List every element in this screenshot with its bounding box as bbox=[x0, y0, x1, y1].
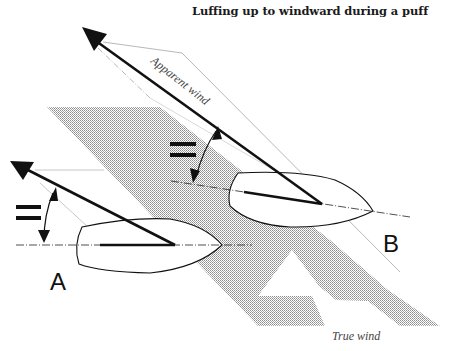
equal-sign-a-bottom bbox=[16, 216, 41, 220]
boat-a-letter: A bbox=[50, 268, 66, 295]
angle-arrow-down-icon bbox=[38, 230, 50, 243]
apparent-wind-label: Apparent wind bbox=[147, 53, 213, 109]
true-wind-band bbox=[47, 107, 440, 326]
equal-sign-b-bottom bbox=[170, 153, 196, 157]
true-wind-label: True wind bbox=[332, 329, 381, 343]
equal-sign-b-top bbox=[170, 142, 196, 146]
sailing-diagram: B A Apparent wind True wind bbox=[0, 0, 454, 351]
equal-sign-a-top bbox=[16, 205, 41, 209]
angle-arrow-up-icon bbox=[49, 187, 58, 201]
boat-b-letter: B bbox=[383, 230, 399, 257]
